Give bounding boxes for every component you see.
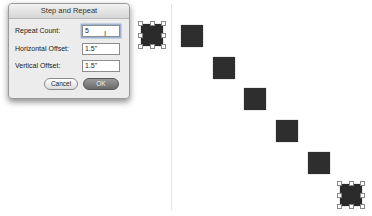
page-margin-guide [171, 4, 172, 210]
step-and-repeat-dialog: Step and Repeat Repeat Count: 5 I Horizo… [8, 3, 130, 99]
horizontal-offset-input[interactable]: 1.5" [82, 43, 120, 55]
selection-handle[interactable] [150, 44, 155, 49]
vertical-offset-input[interactable]: 1.5" [82, 60, 120, 72]
repeated-square-2[interactable] [213, 57, 235, 79]
selection-handle[interactable] [337, 193, 342, 198]
selection-handle[interactable] [349, 204, 354, 209]
repeated-square-1[interactable] [181, 25, 203, 47]
dialog-title: Step and Repeat [9, 4, 129, 19]
text-cursor-icon: I [104, 29, 106, 38]
horizontal-offset-label: Horizontal Offset: [15, 45, 69, 52]
repeat-count-input[interactable]: 5 [82, 25, 120, 37]
repeated-square-4[interactable] [276, 120, 298, 142]
selection-handle[interactable] [150, 21, 155, 26]
selection-handle[interactable] [138, 21, 143, 26]
selection-handle[interactable] [349, 181, 354, 186]
repeated-square-5[interactable] [308, 152, 330, 174]
cancel-button[interactable]: Cancel [44, 78, 78, 90]
selection-handle[interactable] [161, 33, 166, 38]
selection-handle[interactable] [360, 181, 365, 186]
selection-handle[interactable] [161, 44, 166, 49]
selection-handle[interactable] [360, 204, 365, 209]
repeated-square-6-selected[interactable] [340, 184, 362, 206]
original-square-selected[interactable] [141, 24, 163, 46]
ok-button[interactable]: OK [83, 78, 119, 90]
repeated-square-3[interactable] [244, 88, 266, 110]
selection-handle[interactable] [161, 21, 166, 26]
selection-handle[interactable] [337, 204, 342, 209]
selection-handle[interactable] [360, 193, 365, 198]
repeat-count-label: Repeat Count: [15, 27, 60, 34]
selection-handle[interactable] [138, 44, 143, 49]
selection-handle[interactable] [337, 181, 342, 186]
vertical-offset-label: Vertical Offset: [15, 62, 60, 69]
selection-handle[interactable] [138, 33, 143, 38]
